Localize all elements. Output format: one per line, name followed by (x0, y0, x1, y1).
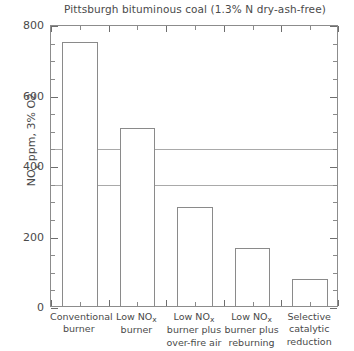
y-tick-right-150 (333, 255, 337, 256)
y-axis-label: NOx ppm, 3% O2 (25, 60, 40, 220)
x-tick-major-top-3 (224, 26, 225, 32)
y-tick-right-400 (330, 167, 337, 168)
y-tick-450 (51, 149, 55, 150)
y-tick-right-350 (333, 185, 337, 186)
y-tick-right-450 (333, 149, 337, 150)
y-tick-right-800 (330, 26, 337, 27)
y-axis-label-post: ppm, 3% O2 (25, 93, 38, 165)
y-tick-350 (51, 185, 55, 186)
x-tick-major-top-5 (338, 26, 339, 32)
nox-emissions-bar-chart: Pittsburgh bituminous coal (1.3% N dry-a… (0, 0, 354, 351)
y-tick-right-500 (333, 132, 337, 133)
y-tick-right-200 (330, 238, 337, 239)
x-category-label-2: Low NOxburner plusover-fire air (165, 311, 223, 349)
bar-2 (177, 207, 213, 306)
x-tick-major-top-0 (51, 26, 52, 32)
x-tick-minor-2 (195, 302, 196, 306)
y-tick-label-600: 600 (2, 89, 44, 102)
x-category-label-1: Low NOxburner (108, 311, 166, 337)
x-tick-minor-top-4 (310, 26, 311, 30)
y-tick-600 (51, 97, 58, 98)
x-tick-minor-4 (310, 302, 311, 306)
x-tick-major-1 (109, 300, 110, 306)
x-tick-minor-0 (80, 302, 81, 306)
y-tick-label-200: 200 (2, 230, 44, 243)
x-tick-major-top-1 (109, 26, 110, 32)
y-tick-800 (51, 26, 58, 27)
y-tick-250 (51, 220, 55, 221)
y-tick-500 (51, 132, 55, 133)
x-tick-major-2 (166, 300, 167, 306)
bar-1 (120, 128, 156, 306)
y-tick-right-750 (333, 44, 337, 45)
x-category-label-4: Selectivecatalyticreduction (280, 311, 338, 348)
x-tick-major-top-2 (166, 26, 167, 32)
y-tick-right-300 (333, 202, 337, 203)
x-tick-minor-top-2 (195, 26, 196, 30)
y-tick-400 (51, 167, 58, 168)
x-tick-minor-top-3 (253, 26, 254, 30)
y-tick-right-50 (333, 290, 337, 291)
x-tick-minor-top-1 (137, 26, 138, 30)
y-tick-right-550 (333, 114, 337, 115)
x-tick-major-0 (51, 300, 52, 306)
y-tick-label-800: 800 (2, 19, 44, 32)
y-tick-label-400: 400 (2, 160, 44, 173)
x-category-label-0: Conventionalburner (50, 311, 108, 336)
chart-title: Pittsburgh bituminous coal (1.3% N dry-a… (50, 3, 340, 15)
x-tick-major-5 (338, 300, 339, 306)
y-tick-right-250 (333, 220, 337, 221)
y-tick-200 (51, 238, 58, 239)
plot-inner (51, 26, 337, 306)
y-tick-750 (51, 44, 55, 45)
y-tick-300 (51, 202, 55, 203)
y-tick-700 (51, 61, 55, 62)
y-tick-right-0 (330, 308, 337, 309)
plot-area (50, 25, 338, 307)
y-tick-50 (51, 290, 55, 291)
x-tick-minor-3 (253, 302, 254, 306)
x-tick-minor-top-0 (80, 26, 81, 30)
y-tick-650 (51, 79, 55, 80)
y-tick-0 (51, 308, 58, 309)
bar-3 (235, 248, 271, 306)
y-tick-550 (51, 114, 55, 115)
x-tick-major-3 (224, 300, 225, 306)
y-tick-100 (51, 273, 55, 274)
y-tick-label-0: 0 (2, 301, 44, 314)
y-tick-150 (51, 255, 55, 256)
bar-0 (62, 42, 98, 306)
y-tick-right-650 (333, 79, 337, 80)
x-tick-major-4 (281, 300, 282, 306)
y-tick-right-600 (330, 97, 337, 98)
x-tick-major-top-4 (281, 26, 282, 32)
x-tick-minor-1 (137, 302, 138, 306)
x-category-label-3: Low NOxburner plusreburning (223, 311, 281, 349)
y-tick-right-100 (333, 273, 337, 274)
y-tick-right-700 (333, 61, 337, 62)
